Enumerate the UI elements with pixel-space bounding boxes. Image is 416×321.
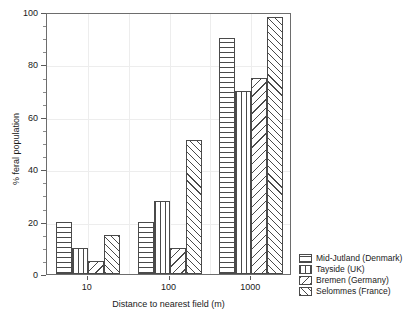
legend-label: Bremen (Germany) <box>316 275 389 286</box>
x-tick-mark <box>169 276 170 280</box>
chart-figure: % feral population 020406080100 10100100… <box>0 0 416 321</box>
x-axis-title: Distance to nearest field (m) <box>46 299 291 309</box>
legend-label: Mid-Jutland (Denmark) <box>316 253 402 264</box>
y-tick-label: 60 <box>28 113 38 123</box>
bar <box>88 261 104 274</box>
legend-label: Selommes (France) <box>316 286 391 297</box>
legend-swatch-diagonal-backslash <box>299 276 312 285</box>
bar <box>72 248 88 274</box>
legend-item: Bremen (Germany) <box>299 275 415 286</box>
x-tick-mark <box>87 276 88 280</box>
y-tick-label: 20 <box>28 218 38 228</box>
y-tick-label: 80 <box>28 60 38 70</box>
bar <box>170 248 186 274</box>
x-tick-label: 100 <box>161 282 176 292</box>
bar <box>219 38 235 274</box>
legend-item: Mid-Jutland (Denmark) <box>299 253 415 264</box>
bar <box>251 78 267 275</box>
legend-swatch-vertical-lines <box>299 265 312 274</box>
gridline-horizontal <box>47 66 290 67</box>
x-tick-label: 1000 <box>240 282 260 292</box>
legend-swatch-diagonal-forwardslash <box>299 287 312 296</box>
y-axis: % feral population 020406080100 <box>0 0 46 321</box>
gridline-vertical-center <box>88 14 89 274</box>
legend-swatch-horizontal-lines <box>299 254 312 263</box>
y-tick-mark <box>41 275 46 276</box>
bar <box>104 235 120 274</box>
x-tick-label: 10 <box>82 282 92 292</box>
gridline-vertical-center <box>170 14 171 274</box>
y-tick-label: 0 <box>33 270 38 280</box>
bar <box>267 17 283 274</box>
bar <box>186 140 202 274</box>
y-tick-label: 40 <box>28 165 38 175</box>
bar <box>235 91 251 274</box>
gridline-vertical <box>129 14 130 274</box>
y-axis-title: % feral population <box>11 89 21 209</box>
legend-item: Tayside (UK) <box>299 264 415 275</box>
gridline-vertical <box>210 14 211 274</box>
x-tick-mark <box>250 276 251 280</box>
bar <box>154 201 170 274</box>
bar <box>138 222 154 274</box>
plot-area <box>46 13 291 275</box>
legend-label: Tayside (UK) <box>316 264 365 275</box>
chart-legend: Mid-Jutland (Denmark)Tayside (UK)Bremen … <box>299 253 415 297</box>
legend-item: Selommes (France) <box>299 286 415 297</box>
bar <box>56 222 72 274</box>
y-tick-label: 100 <box>23 8 38 18</box>
